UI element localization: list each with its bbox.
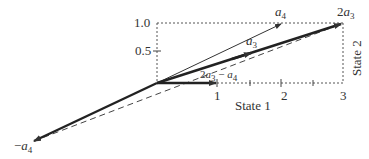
y-tick-label-1-0: 1.0 xyxy=(134,15,150,30)
vector-a3-head xyxy=(232,53,251,59)
label-2a3-minus-a4: 2a3 − a4 xyxy=(200,68,238,83)
vector-diagram: 1 2 3 0.5 1.0 State 1 State 2 a4 2a3 a3 … xyxy=(0,0,369,159)
x-axis-label: State 1 xyxy=(235,98,271,113)
vector-neg-a4 xyxy=(34,83,157,141)
y-axis-label: State 2 xyxy=(349,40,364,76)
x-tick-label-3: 3 xyxy=(340,88,347,103)
label-neg-a4: −a4 xyxy=(14,138,33,155)
x-tick-label-1: 1 xyxy=(214,88,221,103)
y-tick-label-0-5: 0.5 xyxy=(135,43,151,58)
label-2a3: 2a3 xyxy=(337,4,355,21)
x-tick-label-2: 2 xyxy=(281,88,288,103)
label-a4: a4 xyxy=(275,4,287,21)
